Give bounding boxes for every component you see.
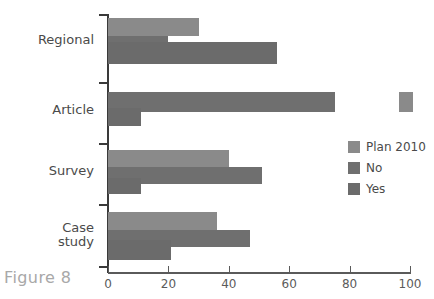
x-tick-60 <box>289 266 290 274</box>
category-label-line: Article <box>0 103 94 117</box>
y-tick-4 <box>99 266 108 268</box>
legend-item-plan: Plan 2010 <box>348 139 426 154</box>
x-tick-label-60: 60 <box>282 277 297 291</box>
x-tick-label-20: 20 <box>161 277 176 291</box>
legend-label: No <box>366 161 382 175</box>
y-tick-0 <box>99 14 108 16</box>
bar-survey-yes <box>108 178 141 194</box>
x-tick-20 <box>168 266 169 274</box>
category-label-article: Article <box>0 103 94 117</box>
legend-label: Yes <box>366 182 385 196</box>
figure-caption: Figure 8 <box>4 268 71 287</box>
bar-article-no <box>108 92 335 112</box>
legend-swatch-icon <box>348 141 360 153</box>
bar-survey-plan <box>108 150 229 167</box>
x-tick-label-0: 0 <box>104 277 112 291</box>
chart-legend: Plan 2010NoYes <box>348 139 426 196</box>
legend-item-no: No <box>348 160 426 175</box>
x-tick-label-40: 40 <box>221 277 236 291</box>
category-label-survey: Survey <box>0 164 94 178</box>
legend-item-yes: Yes <box>348 181 426 196</box>
y-tick-2 <box>99 143 108 145</box>
bar-case-study-yes <box>108 240 171 260</box>
figure-container: 020406080100 RegionalArticleSurveyCasest… <box>0 0 434 299</box>
x-tick-label-100: 100 <box>399 277 422 291</box>
category-label-line: Regional <box>0 33 94 47</box>
legend-swatch-icon <box>348 183 360 195</box>
x-axis-line <box>108 272 410 274</box>
x-tick-0 <box>108 266 109 274</box>
category-label-line: study <box>0 235 94 249</box>
x-tick-80 <box>350 266 351 274</box>
bar-article-plan <box>399 92 413 112</box>
category-label-line: Case <box>0 221 94 235</box>
y-tick-3 <box>99 204 108 206</box>
bar-regional-plan <box>108 18 199 36</box>
category-label-case-study: Casestudy <box>0 221 94 249</box>
x-tick-label-80: 80 <box>342 277 357 291</box>
x-tick-40 <box>229 266 230 274</box>
category-label-line: Survey <box>0 164 94 178</box>
y-tick-1 <box>99 82 108 84</box>
x-tick-100 <box>410 266 411 274</box>
bar-regional-yes <box>108 42 277 64</box>
legend-label: Plan 2010 <box>366 140 426 154</box>
bar-case-study-plan <box>108 212 217 230</box>
legend-swatch-icon <box>348 162 360 174</box>
category-label-regional: Regional <box>0 33 94 47</box>
bar-article-yes <box>108 108 141 126</box>
